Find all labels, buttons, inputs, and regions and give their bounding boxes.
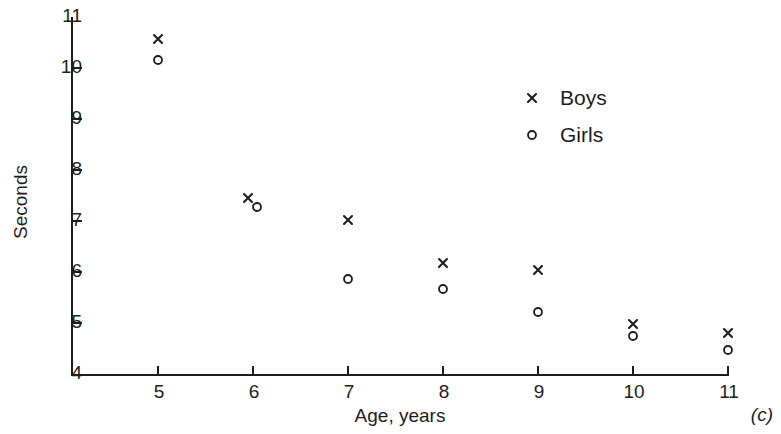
data-point-girls-age-11 — [720, 342, 736, 358]
y-axis-title: Seconds — [11, 147, 31, 257]
x-tick-mark — [632, 366, 634, 375]
x-tick-mark — [252, 366, 254, 375]
x-tick-mark — [537, 366, 539, 375]
y-tick-mark — [73, 322, 82, 324]
data-point-girls-age-9 — [530, 304, 546, 320]
y-tick-label: 11 — [54, 6, 82, 25]
x-axis-line — [71, 374, 729, 376]
y-tick-label: 4 — [54, 363, 82, 382]
y-tick: 11 — [0, 16, 82, 18]
legend-item-girls: Girls — [524, 121, 694, 158]
data-point-girls-age-5 — [150, 52, 166, 68]
panel-label: (c) — [751, 404, 773, 426]
y-tick: 10 — [0, 67, 82, 69]
x-tick-label: 7 — [329, 381, 369, 403]
x-axis-title: Age, years — [71, 405, 729, 427]
y-tick-mark — [73, 220, 82, 222]
y-tick: 9 — [0, 118, 82, 120]
scatter-chart-figure: 4567891011 567891011 Seconds Age, years … — [0, 0, 781, 434]
x-tick-mark — [347, 366, 349, 375]
x-tick-mark — [157, 366, 159, 375]
data-point-girls-age-8 — [435, 281, 451, 297]
x-tick-mark — [727, 366, 729, 375]
y-tick: 6 — [0, 271, 82, 273]
y-tick-mark — [73, 118, 82, 120]
data-point-girls-age-10 — [625, 328, 641, 344]
legend-item-boys: Boys — [524, 84, 694, 121]
legend-label: Boys — [560, 84, 607, 112]
x-tick-label: 5 — [139, 381, 179, 403]
data-point-boys-age-8 — [435, 255, 451, 271]
data-point-boys-age-9 — [530, 262, 546, 278]
x-tick-label: 10 — [614, 381, 654, 403]
data-point-boys-age-5 — [150, 31, 166, 47]
data-point-boys-age-7 — [340, 212, 356, 228]
cross-marker-icon — [524, 90, 540, 106]
x-tick-label: 8 — [424, 381, 464, 403]
x-tick-label: 9 — [519, 381, 559, 403]
y-tick: 5 — [0, 322, 82, 324]
x-tick-label: 6 — [234, 381, 274, 403]
circle-marker-icon — [524, 127, 540, 143]
chart-legend: BoysGirls — [524, 84, 694, 158]
data-point-boys-age-11 — [720, 325, 736, 341]
data-point-girls-age-6 — [249, 199, 265, 215]
x-tick-label: 11 — [709, 381, 749, 403]
y-tick-mark — [73, 169, 82, 171]
y-tick-mark — [73, 271, 82, 273]
y-tick-mark — [73, 67, 82, 69]
x-tick-mark — [442, 366, 444, 375]
legend-label: Girls — [560, 121, 603, 149]
data-point-girls-age-7 — [340, 271, 356, 287]
y-tick: 4 — [0, 373, 82, 375]
